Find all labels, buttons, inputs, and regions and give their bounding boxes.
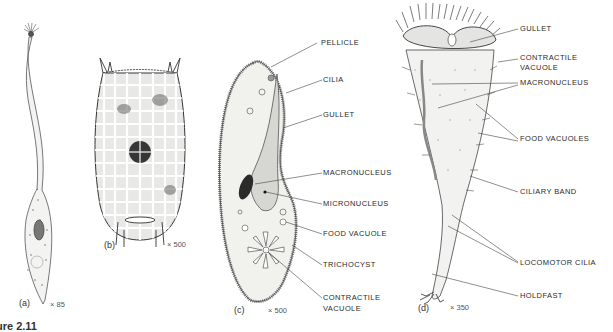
label-contractile-d: CONTRACTILE [520,53,577,63]
label-food-vacuole: FOOD VACUOLE [323,229,387,239]
organism-b [90,58,190,247]
label-food-vacuoles: FOOD VACUOLES [520,134,589,144]
panel-b-magnification: × 500 [167,240,186,249]
panel-d-tag: (d) [418,303,429,313]
label-ciliary-band: CILIARY BAND [520,187,577,197]
figure-caption-fragment: ure 2.11 [0,320,37,332]
label-gullet-c: GULLET [323,110,355,120]
label-macronucleus-d: MACRONUCLEUS [520,78,589,88]
label-pellicle: PELLICLE [321,38,359,48]
organism-a [24,23,52,304]
label-contractile-c: CONTRACTILE [323,293,380,303]
organism-c [219,62,296,302]
panel-c-tag: (c) [234,305,245,315]
label-macronucleus-c: MACRONUCLEUS [323,168,392,178]
panel-a-magnification: × 85 [50,300,65,309]
label-gullet-d: GULLET [520,24,552,34]
label-vacuole-c: VACUOLE [323,304,361,314]
label-trichocyst: TRICHOCYST [323,260,376,270]
label-cilia: CILIA [323,75,344,85]
label-micronucleus: MICRONUCLEUS [323,199,389,209]
label-vacuole-d: VACUOLE [520,63,558,73]
organism-d [396,3,500,304]
panel-c-magnification: × 500 [268,306,287,315]
label-locomotor-cilia: LOCOMOTOR CILIA [520,258,596,268]
panel-d-magnification: × 350 [450,303,469,312]
panel-a-tag: (a) [19,298,30,308]
panel-b-tag: (b) [104,240,115,250]
label-holdfast: HOLDFAST [520,291,563,301]
